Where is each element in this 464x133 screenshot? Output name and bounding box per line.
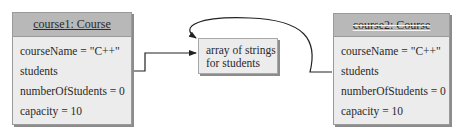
course2-header: course2: Course — [334, 14, 449, 37]
course1-field-coursename: courseName = "C++" — [13, 41, 131, 61]
course2-object-box: course2: Course courseName = "C++" stude… — [333, 13, 450, 125]
array-box-line2: for students — [206, 57, 277, 70]
course1-header: course1: Course — [13, 13, 131, 37]
course1-object-box: course1: Course courseName = "C++" stude… — [12, 12, 132, 125]
array-box-line1: array of strings — [206, 44, 277, 57]
course2-field-numberofstudents: numberOfStudents = 0 — [334, 81, 449, 101]
course1-field-capacity: capacity = 10 — [13, 101, 131, 121]
course1-field-students: students — [13, 61, 131, 81]
course1-field-numberofstudents: numberOfStudents = 0 — [13, 81, 131, 101]
course1-title: course1: Course — [33, 17, 111, 31]
course2-field-capacity: capacity = 10 — [334, 101, 449, 121]
course2-field-coursename: courseName = "C++" — [334, 41, 449, 61]
course2-title: course2: Course — [353, 18, 431, 32]
course2-field-students: students — [334, 61, 449, 81]
students-array-box: array of strings for students — [198, 38, 278, 74]
